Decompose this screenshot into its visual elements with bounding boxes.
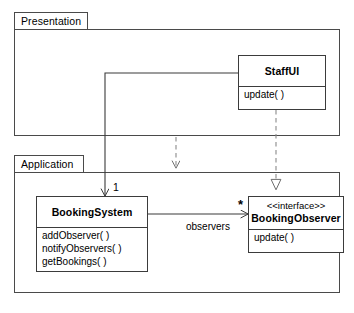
line-staffui-to-bookingsystem — [105, 73, 238, 196]
package-label-presentation: Presentation — [21, 16, 81, 27]
class-name-bookingobserver: BookingObserver — [251, 212, 341, 225]
multiplicity-label-many: * — [238, 198, 243, 211]
class-box-bookingobserver[interactable]: <<interface>> BookingObserver update( ) — [248, 196, 344, 253]
class-header-bookingsystem: BookingSystem — [37, 197, 147, 228]
package-tab-presentation: Presentation — [14, 12, 88, 30]
operation-item: notifyObservers( ) — [42, 243, 147, 256]
operation-item: update( ) — [244, 89, 325, 102]
class-stereotype-bookingobserver: <<interface>> — [267, 201, 326, 212]
multiplicity-label-one: 1 — [113, 182, 119, 193]
class-operations-bookingobserver: update( ) — [249, 230, 343, 252]
class-box-bookingsystem[interactable]: BookingSystem addObserver( ) notifyObser… — [36, 196, 148, 272]
package-label-application: Application — [21, 159, 73, 170]
operation-item: update( ) — [254, 232, 343, 245]
association-role-label-observers: observers — [186, 222, 230, 232]
class-header-bookingobserver: <<interface>> BookingObserver — [249, 197, 343, 230]
class-name-bookingsystem: BookingSystem — [52, 206, 133, 219]
class-header-staffui: StaffUI — [239, 56, 325, 87]
operation-item: addObserver( ) — [42, 230, 147, 243]
uml-class-diagram: Presentation Application — [0, 0, 354, 313]
class-operations-staffui: update( ) — [239, 87, 325, 109]
class-name-staffui: StaffUI — [265, 65, 300, 78]
class-operations-bookingsystem: addObserver( ) notifyObservers( ) getBoo… — [37, 228, 147, 271]
class-box-staffui[interactable]: StaffUI update( ) — [238, 55, 326, 110]
package-tab-application: Application — [14, 155, 84, 173]
operation-item: getBookings( ) — [42, 256, 147, 269]
